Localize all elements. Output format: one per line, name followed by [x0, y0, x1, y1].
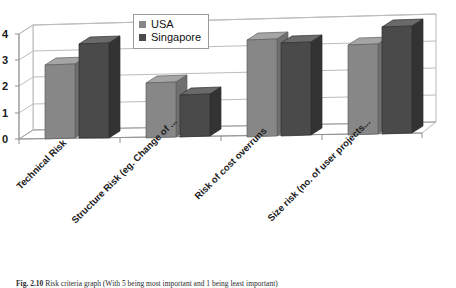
figure-caption-text: Risk criteria graph (With 5 being most i…: [45, 279, 278, 288]
bar-front-face: [382, 26, 412, 134]
square-swatch-icon: [139, 34, 146, 41]
y-axis-tick-label-0: 0: [0, 134, 8, 145]
bar-front-face: [281, 42, 311, 136]
y-axis-tick-label-1: 1: [0, 108, 8, 119]
bar-front-face: [79, 43, 109, 138]
bar-side-face: [412, 19, 423, 133]
bar-singapore-structure-risk[interactable]: [180, 87, 221, 137]
bar-front-face: [247, 39, 277, 137]
legend-item-usa[interactable]: USA: [139, 18, 201, 31]
legend-item-singapore[interactable]: Singapore: [139, 31, 201, 44]
chart-plot-area: 4 3 2 1 0 USA Singapore Technical Risk S…: [0, 0, 456, 272]
bar-group-cost-overruns: [247, 32, 322, 137]
y-axis-tick-label-2: 2: [0, 81, 8, 92]
figure-caption: Fig. 2.10 Risk criteria graph (With 5 be…: [16, 279, 446, 288]
bar-front-face: [180, 94, 210, 137]
bar-side-face: [109, 36, 120, 138]
chart-legend[interactable]: USA Singapore: [133, 14, 209, 49]
bar-side-face: [311, 35, 322, 135]
bar-singapore-size-risk[interactable]: [382, 19, 423, 134]
figure-caption-label: Fig. 2.10: [16, 279, 43, 288]
bar-singapore-technical-risk[interactable]: [79, 36, 120, 138]
y-axis-tick-label-4: 4: [0, 29, 8, 40]
bar-singapore-cost-overruns[interactable]: [281, 35, 322, 136]
legend-item-label: USA: [151, 18, 174, 31]
y-axis-tick-label-3: 3: [0, 55, 8, 66]
square-swatch-icon: [139, 21, 146, 28]
legend-item-label: Singapore: [151, 31, 201, 44]
chart-3d-frame: [0, 0, 456, 272]
bar-side-face: [210, 87, 221, 136]
figure-container: 4 3 2 1 0 USA Singapore Technical Risk S…: [0, 0, 456, 288]
bar-front-face: [45, 64, 75, 139]
